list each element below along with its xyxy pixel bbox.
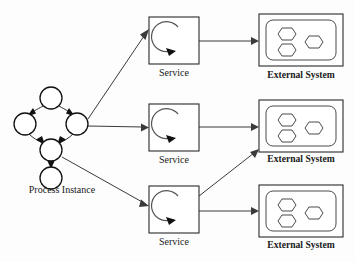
external-system-3-label: External System <box>267 239 334 250</box>
external-system-1-label: External System <box>267 69 334 80</box>
external-system-2-component-1 <box>278 114 296 126</box>
service-2-label: Service <box>159 154 190 165</box>
external-system-1-box[interactable] <box>259 14 343 66</box>
external-system-1-component-1 <box>278 28 296 40</box>
process-instance-node-right[interactable] <box>66 113 88 135</box>
external-system-3-component-3 <box>278 215 296 227</box>
connection-process-instance-to-service-3 <box>62 157 149 207</box>
service-3-label: Service <box>159 236 190 247</box>
connection-service-3-to-external-system-3 <box>199 207 259 215</box>
connection-process-instance-to-service-1 <box>88 29 149 119</box>
process-service-diagram: Process Instance Service Service <box>0 0 355 262</box>
external-system-1-group[interactable]: External System <box>259 14 343 80</box>
external-system-3-group[interactable]: External System <box>259 185 343 250</box>
diagram-canvas: Process Instance Service Service <box>0 0 355 262</box>
connection-service-1-to-external-system-1 <box>199 37 259 45</box>
process-instance-label: Process Instance <box>29 184 96 195</box>
service-1-group[interactable]: Service <box>149 17 199 78</box>
service-3-group[interactable]: Service <box>149 186 199 247</box>
external-system-2-component-3 <box>278 130 296 142</box>
external-system-2-label: External System <box>267 153 334 164</box>
external-system-3-box[interactable] <box>259 185 343 237</box>
connection-process-instance-to-service-2 <box>88 124 149 132</box>
process-instance-group[interactable]: Process Instance <box>14 87 96 195</box>
process-instance-node-top[interactable] <box>40 87 62 109</box>
process-instance-node-left[interactable] <box>14 113 36 135</box>
external-system-2-box[interactable] <box>259 100 343 152</box>
external-system-2-component-2 <box>305 122 323 134</box>
connection-service-2-to-external-system-2 <box>199 123 259 131</box>
external-system-3-component-2 <box>305 207 323 219</box>
external-system-1-component-2 <box>305 36 323 48</box>
external-system-2-group[interactable]: External System <box>259 100 343 164</box>
external-system-1-component-3 <box>278 44 296 56</box>
process-instance-node-bottom[interactable] <box>40 139 62 161</box>
service-1-label: Service <box>159 67 190 78</box>
external-system-3-component-1 <box>278 199 296 211</box>
service-2-group[interactable]: Service <box>149 104 199 165</box>
connection-service-3-to-external-system-2 <box>199 149 259 196</box>
